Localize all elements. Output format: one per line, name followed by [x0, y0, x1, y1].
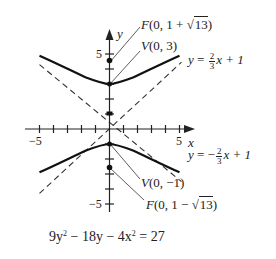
vertex-lower-label: V(0, −1) — [141, 176, 184, 189]
x-tick-label-5: 5 — [176, 135, 182, 147]
y-axis-arrow-icon — [106, 29, 114, 40]
focus-upper-label: F(0, 1 + √13) — [141, 18, 212, 31]
focus-upper-point — [107, 58, 113, 64]
vertex-upper-point — [107, 82, 112, 87]
hyperbola-figure: y x 5 −5 −5 5 F(0, 1 + √13) V(0, 3) V(0,… — [0, 0, 276, 259]
vertex-lower-point — [107, 142, 112, 147]
vertex-upper-label: V(0, 3) — [141, 39, 177, 52]
y-tick-label-neg5: −5 — [89, 198, 102, 210]
focus-lower-label: F(0, 1 − √13) — [146, 198, 217, 211]
y-axis — [105, 29, 114, 212]
center-point — [107, 112, 113, 116]
asymptote-upper-label: y = 23x + 1 — [188, 52, 244, 71]
hyperbola-equation: 9y2 − 18y − 4x2 = 27 — [49, 230, 165, 244]
x-axis-arrow-icon — [184, 125, 195, 133]
leader-lines — [110, 27, 144, 200]
graph-canvas — [0, 0, 276, 259]
focus-lower-point — [107, 165, 113, 171]
y-tick-label-5: 5 — [96, 48, 102, 60]
y-axis-label: y — [117, 27, 123, 40]
asymptote-lower-label: y = −23x + 1 — [188, 147, 251, 166]
x-tick-label-neg5: −5 — [29, 135, 42, 147]
